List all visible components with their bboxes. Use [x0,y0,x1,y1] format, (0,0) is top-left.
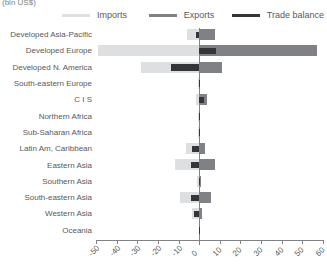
bar-exports [199,208,201,219]
bar-exports [199,159,214,170]
chart-row [96,110,323,124]
bar-trade-balance [191,195,199,202]
x-tick [137,240,138,244]
legend-swatch-imports [62,14,90,17]
bar-imports [98,45,199,56]
bar-trade-balance [199,80,200,87]
category-label: Western Asia [0,207,92,221]
x-tick-label: 20 [231,245,244,258]
legend-label-imports: Imports [97,10,127,20]
x-tick [282,240,283,244]
category-axis-labels: Developed Asia-PacificDeveloped EuropeDe… [0,28,92,240]
bar-exports [199,45,317,56]
x-tick [323,240,324,244]
bar-trade-balance [191,162,199,169]
x-tick-label: 50 [293,245,306,258]
legend-item-imports: Imports [62,10,149,20]
chart-row [96,142,323,156]
chart-row [96,61,323,75]
category-label: South-eastern Asia [0,191,92,205]
category-label: C I S [0,93,92,107]
category-label: Sub-Saharan Africa [0,126,92,140]
legend-item-exports: Exports [149,10,232,20]
chart-row [96,126,323,140]
legend-item-trade-balance: Trade balance [232,10,324,20]
category-label: Developed Europe [0,44,92,58]
legend-swatch-trade-balance [232,14,260,17]
bar-exports [199,143,205,154]
plot-area [96,28,323,240]
chart-row [96,191,323,205]
category-label: Developed Asia-Pacific [0,28,92,42]
x-tick [220,240,221,244]
category-label: Developed N. America [0,61,92,75]
category-label: Eastern Asia [0,158,92,172]
legend-swatch-exports [149,14,177,17]
bar-exports [199,192,210,203]
bar-trade-balance [199,178,200,185]
bar-trade-balance [199,97,204,104]
x-tick-label: 30 [252,245,265,258]
bar-trade-balance [196,32,199,39]
x-tick-label: -10 [169,244,184,259]
bar-trade-balance [171,64,199,71]
chart-row [96,224,323,238]
bar-trade-balance [199,129,200,136]
chart-row [96,158,323,172]
chart-row [96,44,323,58]
bar-trade-balance [194,211,199,218]
chart-row [96,93,323,107]
legend-label-trade-balance: Trade balance [267,10,324,20]
category-label: Latin Am, Caribbean [0,142,92,156]
x-tick-label: 60 [314,245,327,258]
x-axis-line [96,240,323,241]
x-tick-label: -20 [149,244,164,259]
bar-trade-balance [199,113,200,120]
axis-unit-label: (bln US$) [2,0,36,7]
x-tick-label: 40 [273,245,286,258]
chart-legend: Imports Exports Trade balance [62,8,324,22]
bar-exports [199,29,214,40]
chart-row [96,77,323,91]
category-label: Oceania [0,224,92,238]
bar-trade-balance [199,227,200,234]
x-tick-label: 0 [190,249,200,259]
bar-exports [199,176,201,187]
x-tick [240,240,241,244]
chart-row [96,207,323,221]
trade-bar-chart: (bln US$) Imports Exports Trade balance … [0,0,327,275]
x-tick [261,240,262,244]
legend-label-exports: Exports [184,10,215,20]
x-tick [199,240,200,244]
bar-exports [199,62,222,73]
bar-trade-balance [199,48,216,55]
x-tick-label: -40 [107,244,122,259]
category-label: South-eastern Europe [0,77,92,91]
x-tick-label: -50 [87,244,102,259]
x-tick-label: -30 [128,244,143,259]
chart-row [96,175,323,189]
x-tick-label: 10 [211,245,224,258]
bar-trade-balance [192,146,199,153]
x-tick [302,240,303,244]
category-label: Northern Africa [0,110,92,124]
chart-row [96,28,323,42]
category-label: Southern Asia [0,175,92,189]
